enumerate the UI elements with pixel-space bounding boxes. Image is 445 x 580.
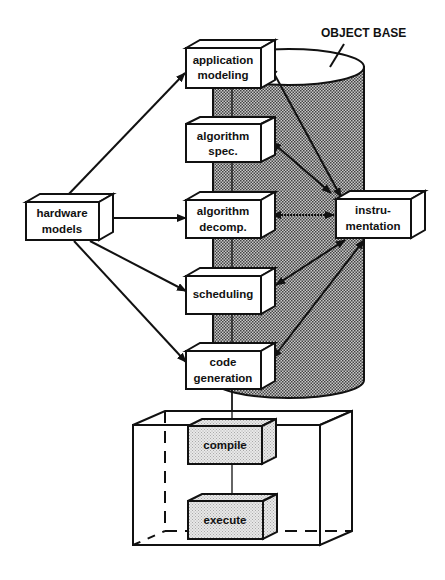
node-label: modeling <box>197 69 248 81</box>
node-label: application <box>193 54 254 66</box>
node-label: execute <box>204 514 247 526</box>
node-algorithm-spec[interactable]: algorithm spec. <box>186 117 275 162</box>
node-code-generation[interactable]: code generation <box>186 343 275 389</box>
arrow-hw-to-codegen <box>74 241 186 362</box>
node-algorithm-decomp[interactable]: algorithm decomp. <box>186 192 275 238</box>
node-label: scheduling <box>193 288 254 300</box>
node-label: spec. <box>208 145 237 157</box>
object-base-label: OBJECT BASE <box>321 26 406 67</box>
arrow-hw-to-scheduling <box>90 241 186 291</box>
node-scheduling[interactable]: scheduling <box>186 268 275 314</box>
node-hardware-models[interactable]: hardware models <box>26 194 113 240</box>
node-label: hardware <box>36 207 87 219</box>
node-compile[interactable]: compile <box>188 419 276 464</box>
node-label: mentation <box>346 220 401 232</box>
node-label: compile <box>203 439 246 451</box>
node-label: models <box>42 223 82 235</box>
node-label: algorithm <box>197 205 249 217</box>
node-label: algorithm <box>197 130 249 142</box>
node-execute[interactable]: execute <box>188 494 277 539</box>
node-label: generation <box>194 372 253 384</box>
node-instrumentation[interactable]: instru- mentation <box>336 191 425 238</box>
node-label: decomp. <box>199 221 246 233</box>
object-base-diagram: OBJECT BASE application modeling algorit… <box>0 0 445 580</box>
object-base-title: OBJECT BASE <box>321 26 406 40</box>
node-label: instru- <box>355 204 391 216</box>
arrow-hw-to-appmodel <box>66 73 185 197</box>
hidden-edge-diagonal <box>133 531 165 545</box>
node-application-modeling[interactable]: application modeling <box>186 40 275 88</box>
node-label: code <box>210 356 237 368</box>
